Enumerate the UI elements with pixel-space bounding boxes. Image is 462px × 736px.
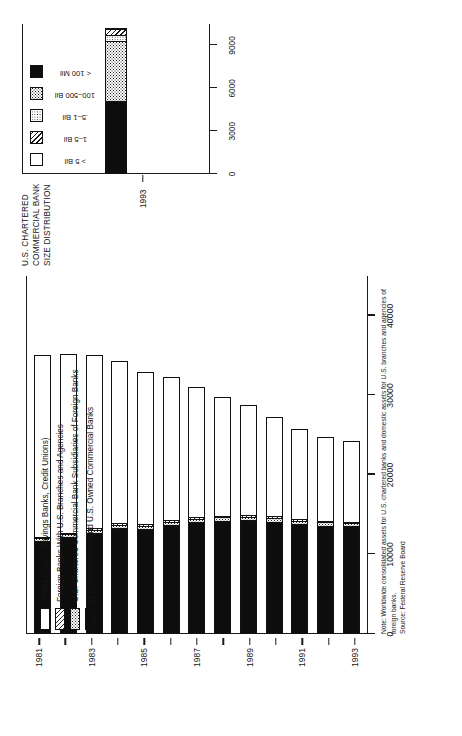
bar-segment bbox=[137, 527, 154, 530]
size-x-axis-tick bbox=[209, 44, 217, 45]
bar-segment bbox=[188, 387, 205, 518]
y-axis-tick bbox=[117, 638, 118, 645]
y-axis-tick bbox=[65, 638, 66, 645]
x-axis-tick bbox=[367, 553, 375, 554]
legend-label: Thrifts (S&L's, Savings Banks, Credit Un… bbox=[41, 438, 50, 602]
bar-segment bbox=[214, 518, 231, 521]
y-axis-label: 1991 bbox=[297, 648, 307, 667]
bar-segment bbox=[291, 522, 308, 525]
legend-item: Foreign Banks With U.S. Branches and Age… bbox=[55, 369, 65, 630]
bar-row bbox=[111, 276, 128, 634]
size-bar-segment bbox=[105, 30, 127, 37]
bar-segment bbox=[188, 523, 205, 634]
size-bar-segment bbox=[105, 102, 127, 174]
size-legend-item: 1–5 Bil bbox=[30, 131, 104, 144]
size-legend: > 5 Bil1–5 Bil.5–1 Bil100–500 Bil< 100 M… bbox=[30, 56, 104, 166]
bar-segment bbox=[111, 526, 128, 529]
bar-segment bbox=[111, 361, 128, 525]
main-x-axis: 010000200003000040000 bbox=[375, 276, 376, 634]
bar-segment bbox=[163, 526, 180, 634]
bar-segment bbox=[240, 516, 257, 518]
bar-segment bbox=[291, 429, 308, 520]
y-axis-tick bbox=[38, 638, 39, 645]
size-legend-swatch bbox=[30, 131, 43, 144]
bar-segment bbox=[266, 523, 283, 634]
size-legend-label: 1–5 Bil bbox=[46, 135, 104, 144]
bar-segment bbox=[343, 524, 360, 527]
figure-canvas: 1981198319851987198919911993 01000020000… bbox=[0, 0, 462, 736]
bar-segment bbox=[214, 522, 231, 634]
y-axis-tick bbox=[328, 638, 329, 645]
legend-swatch bbox=[70, 608, 80, 630]
size-x-axis-label: 3000 bbox=[227, 122, 237, 140]
figure: 1981198319851987198919911993 01000020000… bbox=[0, 0, 462, 736]
bar-segment bbox=[317, 527, 334, 634]
size-x-axis-tick bbox=[209, 173, 217, 174]
size-x-axis-label: 6000 bbox=[227, 79, 237, 97]
bar-segment bbox=[111, 524, 128, 526]
bar-row bbox=[137, 276, 154, 634]
size-x-axis-label: 9000 bbox=[227, 36, 237, 54]
bar-segment bbox=[291, 520, 308, 522]
y-axis-label: 1981 bbox=[34, 648, 44, 667]
legend-label: U.S. Chartered Commercial Bank Subsidiar… bbox=[71, 369, 80, 602]
y-axis-label: 1987 bbox=[192, 648, 202, 667]
bar-segment bbox=[317, 523, 334, 526]
bar-segment bbox=[188, 518, 205, 520]
legend-swatch bbox=[40, 608, 50, 630]
main-legend: Thrifts (S&L's, Savings Banks, Credit Un… bbox=[40, 369, 100, 630]
legend-label: U.S. Commercial and U.S. Owned Commercia… bbox=[86, 407, 95, 602]
size-legend-swatch bbox=[30, 65, 43, 78]
size-legend-item: 100–500 Bil bbox=[30, 87, 104, 100]
bar-segment bbox=[111, 529, 128, 634]
bar-row bbox=[291, 276, 308, 634]
bar-segment bbox=[343, 527, 360, 634]
size-x-axis-tick bbox=[209, 130, 217, 131]
size-y-axis-tick bbox=[142, 175, 143, 182]
bar-row bbox=[317, 276, 334, 634]
x-axis-tick bbox=[367, 633, 375, 634]
bar-segment bbox=[137, 525, 154, 527]
figure-note: Note: Worldwide consolidated assets for … bbox=[379, 270, 408, 634]
size-legend-swatch bbox=[30, 87, 43, 100]
bar-row bbox=[214, 276, 231, 634]
bar-row bbox=[343, 276, 360, 634]
y-axis-tick bbox=[354, 638, 355, 645]
y-axis-label: 1989 bbox=[245, 648, 255, 667]
bar-segment bbox=[214, 397, 231, 516]
bar-segment bbox=[240, 518, 257, 521]
size-distribution-panel: U.S. CHARTEREDCOMMERCIAL BANKSIZE DISTRI… bbox=[18, 20, 256, 266]
y-axis-tick bbox=[223, 638, 224, 645]
y-axis-tick bbox=[275, 638, 276, 645]
bar-segment bbox=[343, 523, 360, 525]
bar-segment bbox=[163, 377, 180, 521]
bar-segment bbox=[266, 517, 283, 519]
bar-segment bbox=[214, 517, 231, 519]
bar-segment bbox=[240, 521, 257, 634]
bar-segment bbox=[317, 522, 334, 524]
bar-segment bbox=[343, 441, 360, 523]
size-legend-item: > 5 Bil bbox=[30, 153, 104, 166]
y-axis-tick bbox=[302, 638, 303, 645]
y-axis-label: 1993 bbox=[350, 648, 360, 667]
bar-segment bbox=[291, 525, 308, 634]
x-axis-tick bbox=[367, 474, 375, 475]
size-legend-label: .5–1 Bil bbox=[46, 113, 104, 122]
size-bar-segment bbox=[105, 36, 127, 41]
y-axis-tick bbox=[91, 638, 92, 645]
legend-item: Thrifts (S&L's, Savings Banks, Credit Un… bbox=[40, 369, 50, 630]
legend-swatch bbox=[55, 608, 65, 630]
main-chart-panel: 1981198319851987198919911993 01000020000… bbox=[18, 270, 410, 708]
size-legend-item: < 100 Mil bbox=[30, 65, 104, 78]
legend-swatch bbox=[85, 608, 95, 630]
bar-segment bbox=[266, 417, 283, 517]
y-axis-label: 1985 bbox=[139, 648, 149, 667]
bar-segment bbox=[317, 437, 334, 522]
size-stacked-bar bbox=[105, 24, 127, 174]
bar-row bbox=[188, 276, 205, 634]
y-axis-tick bbox=[144, 638, 145, 645]
legend-item: U.S. Chartered Commercial Bank Subsidiar… bbox=[70, 369, 80, 630]
y-axis-tick bbox=[196, 638, 197, 645]
size-legend-label: < 100 Mil bbox=[46, 69, 104, 78]
size-legend-label: > 5 Bil bbox=[46, 157, 104, 166]
